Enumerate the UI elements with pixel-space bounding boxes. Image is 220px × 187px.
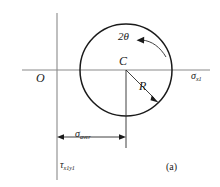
sigma-aver-subscript: aver: [80, 133, 91, 140]
mohrs-circle-figure: O C R 2θ σx1 τx1y1 σaver (a): [0, 0, 220, 187]
radius-label: R: [139, 80, 146, 92]
figure-caption: (a): [166, 162, 177, 172]
two-theta-arrowhead: [137, 37, 145, 44]
tau-subscript-one-b: 1: [72, 164, 75, 171]
sigma-axis-label: σx1: [191, 71, 202, 81]
sigma-aver-left-arrowhead: [57, 134, 64, 140]
tau-axis-label: τx1y1: [60, 160, 75, 170]
diagram-canvas: [0, 0, 220, 187]
sigma-aver-label: σaver: [75, 129, 90, 139]
circle-center-label: C: [119, 55, 127, 67]
radius-arrowhead: [151, 95, 159, 102]
sigma-aver-right-arrowhead: [119, 134, 126, 140]
two-theta-label: 2θ: [118, 31, 129, 42]
origin-label: O: [36, 72, 45, 84]
sigma-subscript-one: 1: [199, 75, 202, 82]
